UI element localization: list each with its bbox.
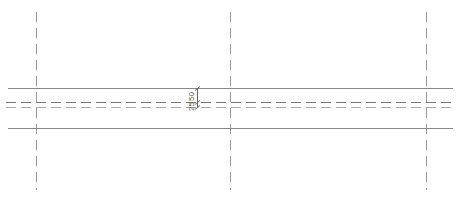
dimension-label-lower: 25 — [187, 102, 196, 111]
dimension-label-upper: 50 — [187, 92, 196, 101]
gridlines — [37, 12, 427, 190]
cad-drawing-canvas: 50 25 — [0, 0, 458, 201]
